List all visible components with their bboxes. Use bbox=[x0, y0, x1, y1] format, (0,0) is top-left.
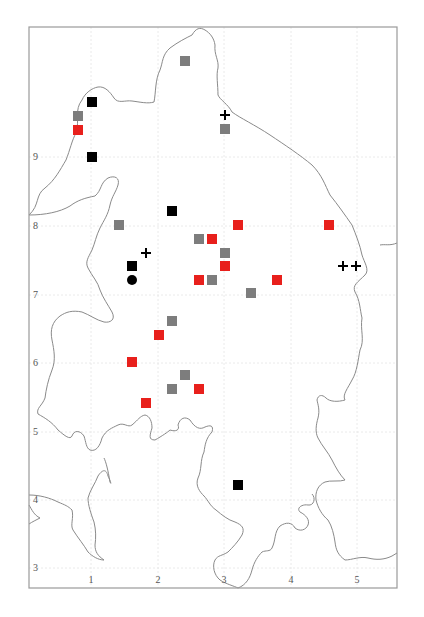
east-notch-outline bbox=[380, 243, 397, 245]
plus-marker bbox=[351, 261, 361, 271]
gray-square-marker bbox=[167, 316, 177, 326]
red-square-marker bbox=[233, 220, 243, 230]
red-square-marker bbox=[141, 398, 151, 408]
y-tick-label: 7 bbox=[33, 289, 38, 300]
y-tick-label: 6 bbox=[33, 357, 38, 368]
y-tick-label: 4 bbox=[33, 494, 38, 505]
x-tick-label: 4 bbox=[289, 574, 294, 585]
grid-lines bbox=[29, 27, 397, 588]
black-square-marker bbox=[233, 480, 243, 490]
x-tick-label: 5 bbox=[355, 574, 360, 585]
west-peninsula-outline bbox=[29, 458, 111, 560]
red-square-marker bbox=[154, 330, 164, 340]
black-circle-marker bbox=[127, 275, 137, 285]
black-square-marker bbox=[167, 206, 177, 216]
west-islet-outline bbox=[29, 505, 40, 524]
black-square-marker bbox=[87, 97, 97, 107]
gray-square-marker bbox=[220, 248, 230, 258]
gray-square-marker bbox=[180, 56, 190, 66]
inner-bay-outline bbox=[29, 177, 118, 414]
marker-layer bbox=[73, 56, 361, 490]
gray-square-marker bbox=[246, 288, 256, 298]
red-square-marker bbox=[220, 261, 230, 271]
gray-square-marker bbox=[73, 111, 83, 121]
estuary-outline bbox=[190, 420, 243, 588]
red-square-marker bbox=[127, 357, 137, 367]
gray-square-marker bbox=[194, 234, 204, 244]
coastline bbox=[29, 28, 397, 588]
east-coast-outline bbox=[316, 396, 397, 560]
y-tick-label: 9 bbox=[33, 151, 38, 162]
plus-marker bbox=[338, 261, 348, 271]
gray-square-marker bbox=[207, 275, 217, 285]
red-square-marker bbox=[324, 220, 334, 230]
red-square-marker bbox=[272, 275, 282, 285]
x-axis-ticks: 12345 bbox=[89, 574, 360, 585]
distribution-map: 12345 9876543 bbox=[0, 0, 424, 617]
plus-marker bbox=[220, 110, 230, 120]
x-tick-label: 2 bbox=[156, 574, 161, 585]
y-tick-label: 5 bbox=[33, 426, 38, 437]
red-square-marker bbox=[194, 384, 204, 394]
red-square-marker bbox=[73, 125, 83, 135]
y-tick-label: 3 bbox=[33, 562, 38, 573]
y-tick-label: 8 bbox=[33, 220, 38, 231]
gray-square-marker bbox=[114, 220, 124, 230]
black-square-marker bbox=[127, 261, 137, 271]
plus-marker bbox=[141, 248, 151, 258]
red-square-marker bbox=[207, 234, 217, 244]
x-tick-label: 1 bbox=[89, 574, 94, 585]
north-coast-outline bbox=[29, 28, 367, 400]
gray-square-marker bbox=[167, 384, 177, 394]
gray-square-marker bbox=[180, 370, 190, 380]
red-square-marker bbox=[194, 275, 204, 285]
gray-square-marker bbox=[220, 124, 230, 134]
x-tick-label: 3 bbox=[222, 574, 227, 585]
southeast-outline bbox=[238, 494, 314, 588]
map-frame bbox=[29, 27, 397, 588]
black-square-marker bbox=[87, 152, 97, 162]
